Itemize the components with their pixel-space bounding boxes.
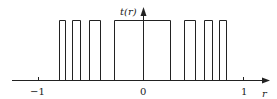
tick-label-1: 1 (241, 86, 247, 97)
diagram-canvas: t(r) r −1 0 1 (0, 0, 277, 99)
x-axis-label: r (262, 88, 268, 99)
y-axis-arrow-icon (141, 7, 147, 16)
pulse-left-1 (60, 21, 66, 81)
pulse-right-2 (205, 21, 213, 81)
x-axis-arrow-icon (262, 78, 270, 84)
pulse-left-3 (90, 21, 101, 81)
pulse-right-1 (185, 21, 196, 81)
pulse-train-diagram: t(r) r −1 0 1 (0, 0, 277, 99)
pulse-right-3 (220, 21, 227, 81)
y-axis-label: t(r) (120, 6, 137, 17)
tick-label-minus-1: −1 (30, 86, 45, 97)
tick-label-0: 0 (140, 86, 146, 97)
pulse-left-2 (73, 21, 81, 81)
pulse-center (115, 21, 171, 81)
